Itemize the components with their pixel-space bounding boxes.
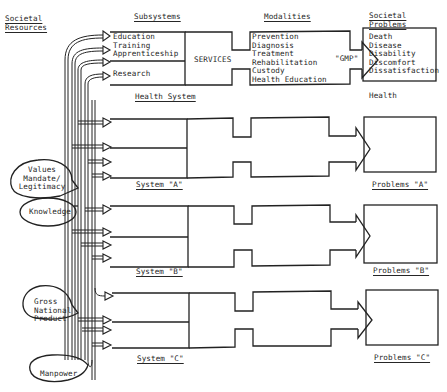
system-a-block	[110, 117, 436, 178]
modalities-list: Prevention Diagnosis Treatment Rehabilit…	[252, 33, 327, 85]
problem-item: Dissatisfaction	[369, 67, 439, 76]
resource-label-line: Legitimacy	[19, 183, 66, 192]
problems-b-label: Problems "B"	[373, 267, 429, 276]
subsystem-list: Education Training Apprenticeship	[113, 33, 178, 59]
resource-gnp: Gross National Product	[34, 298, 71, 324]
health-system-label: Health System	[135, 93, 196, 102]
system-a-label: System "A"	[136, 181, 183, 190]
resource-manpower: Manpower	[40, 370, 77, 379]
resource-values: Values Mandate/ Legitimacy	[14, 166, 70, 192]
header-line: Resources	[5, 24, 47, 33]
header-subsystems: Subsystems	[134, 13, 181, 22]
problems-list: Death Disease Disability Discomfort Diss…	[369, 33, 439, 76]
header-line: Problems	[369, 21, 406, 30]
system-b-label: System "B"	[136, 268, 183, 277]
header-societal-problems: Societal Problems	[369, 12, 406, 29]
header-modalities: Modalities	[264, 13, 311, 22]
subsystem-apprenticeship: Apprenticeship	[113, 50, 178, 59]
modality-item: Health Education	[252, 76, 327, 85]
subsystem-research: Research	[113, 70, 150, 79]
problems-c-label: Problems "C"	[374, 354, 430, 363]
health-label: Health	[369, 92, 397, 101]
resource-label-line: Product	[34, 315, 71, 324]
header-societal-resources: Societal Resources	[5, 15, 47, 32]
gmp-label: "GMP"	[335, 55, 358, 64]
system-b-block	[110, 205, 437, 267]
system-c-block	[112, 290, 438, 348]
system-c-label: System "C"	[137, 355, 184, 364]
resource-knowledge: Knowledge	[29, 208, 71, 217]
problems-a-label: Problems "A"	[372, 181, 428, 190]
services-label: SERVICES	[194, 56, 231, 65]
